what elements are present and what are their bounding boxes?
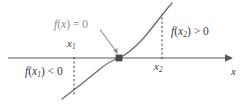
x2-tick-label: x2 — [154, 61, 163, 74]
fx2-operator: > — [194, 25, 201, 37]
root-label-value: 0 — [82, 18, 88, 30]
x-axis-label: x — [231, 66, 236, 77]
fx1-close-paren: ) — [41, 65, 45, 77]
root-label-operator: = — [73, 18, 80, 30]
x1-tick-label: x1 — [67, 38, 76, 51]
x2-tick-sub: 2 — [159, 66, 163, 74]
fx1-operator: < — [48, 65, 55, 77]
callout-arrow — [100, 30, 118, 55]
x-axis-arrowhead — [225, 54, 233, 62]
fx1-value: 0 — [57, 65, 63, 77]
fx1-negative-label: f(x1) < 0 — [25, 66, 63, 79]
root-finding-figure: f(x) = 0 x1 x2 f(x1) < 0 f(x2) > 0 x — [0, 0, 251, 106]
fx2-close-paren: ) — [187, 25, 191, 37]
fx2-value: 0 — [203, 25, 209, 37]
root-point-marker — [116, 55, 123, 62]
x1-tick-sub: 1 — [72, 43, 76, 51]
fx2-positive-label: f(x2) > 0 — [171, 26, 209, 39]
figure-canvas — [0, 0, 251, 106]
root-value-label: f(x) = 0 — [54, 19, 88, 31]
root-label-close-paren: ) — [66, 18, 70, 30]
